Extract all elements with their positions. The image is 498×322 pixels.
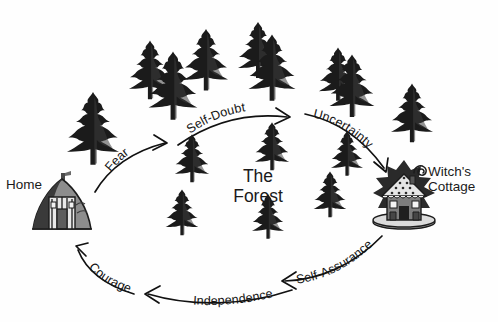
gingerbread-cottage-icon <box>373 160 435 229</box>
node-label-witch: Witch's Cottage <box>428 164 475 194</box>
houses-layer <box>0 0 498 322</box>
node-label-forest: The Forest <box>212 167 304 206</box>
forest-journey-diagram: Fear Self-Doubt Uncertainty Self-Assuran… <box>0 0 498 322</box>
node-label-home: Home <box>6 177 42 192</box>
